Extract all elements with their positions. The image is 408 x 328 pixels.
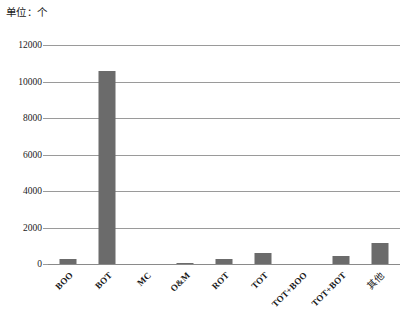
- plot-area: [48, 45, 400, 264]
- bar-slot: [244, 45, 283, 264]
- bar: [333, 256, 350, 264]
- x-axis-category-label: BOO: [53, 270, 75, 292]
- category-slot: BOT: [87, 264, 126, 328]
- bar: [372, 243, 389, 264]
- unit-caption: 单位：个: [6, 6, 47, 20]
- x-axis-category-label: TOT: [249, 270, 270, 291]
- category-slot: TOT+BOT: [322, 264, 361, 328]
- x-axis-category-label: 其他: [366, 270, 388, 292]
- bar-slot: [283, 45, 322, 264]
- category-slot: BOO: [48, 264, 87, 328]
- x-axis-category-label: ROT: [210, 270, 231, 291]
- bar-slot: [165, 45, 204, 264]
- bar: [255, 253, 272, 264]
- category-slot: 其他: [361, 264, 400, 328]
- y-axis-tick-label: 12000: [2, 40, 42, 50]
- y-axis-tick-label: 0: [2, 259, 42, 269]
- category-slot: MC: [126, 264, 165, 328]
- y-axis-tick-label: 2000: [2, 223, 42, 233]
- bar-slot: [204, 45, 243, 264]
- bar-slot: [87, 45, 126, 264]
- x-axis-category-label: MC: [135, 270, 153, 288]
- y-axis-tick-label: 6000: [2, 150, 42, 160]
- bar: [98, 71, 115, 264]
- x-axis-category-labels: BOOBOTMCO&MROTTOTTOT+BOOTOT+BOT其他: [48, 264, 400, 328]
- bar-slot: [126, 45, 165, 264]
- x-axis-category-label: O&M: [168, 270, 192, 294]
- y-axis-tick-label: 8000: [2, 113, 42, 123]
- y-axis-tick-label: 4000: [2, 186, 42, 196]
- bar-slot: [48, 45, 87, 264]
- y-axis-tick-label: 10000: [2, 77, 42, 87]
- category-slot: O&M: [165, 264, 204, 328]
- bar-slot: [361, 45, 400, 264]
- y-axis-tick-labels: 020004000600080001000012000: [0, 45, 42, 264]
- bar-chart: 单位：个 020004000600080001000012000 BOOBOTM…: [0, 0, 408, 328]
- bar-slot: [322, 45, 361, 264]
- x-axis-category-label: BOT: [93, 270, 114, 291]
- category-slot: ROT: [204, 264, 243, 328]
